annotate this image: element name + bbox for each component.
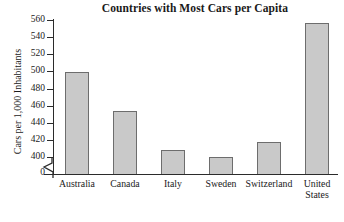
- x-axis-category-label-line: Sweden: [205, 178, 236, 189]
- x-axis-category-label: Canada: [101, 178, 149, 189]
- x-axis-category-label-line: Italy: [164, 178, 182, 189]
- y-tick-label: 520: [14, 49, 45, 59]
- y-tick: [47, 54, 53, 55]
- y-tick-label: 440: [14, 118, 45, 128]
- x-axis-line: [44, 174, 338, 175]
- x-axis-category-label-line: Canada: [110, 178, 139, 189]
- y-tick-label: 480: [14, 84, 45, 94]
- bar: [305, 23, 329, 174]
- y-tick-label: 500: [14, 66, 45, 76]
- y-tick-label: 540: [14, 32, 45, 42]
- y-tick: [47, 71, 53, 72]
- bar: [161, 150, 185, 174]
- y-axis-line: [53, 19, 54, 175]
- x-axis-category-label-line: Australia: [59, 178, 95, 189]
- x-axis-category-label: Italy: [149, 178, 197, 189]
- bar: [65, 72, 89, 174]
- x-axis-category-label: Australia: [53, 178, 101, 189]
- x-axis-category-label: UnitedStates: [293, 178, 341, 200]
- y-tick: [47, 89, 53, 90]
- bar: [113, 111, 137, 174]
- bar: [257, 142, 281, 174]
- bar-chart: Countries with Most Cars per Capita Cars…: [0, 0, 344, 222]
- y-tick-label: 460: [14, 101, 45, 111]
- y-tick: [47, 123, 53, 124]
- y-tick-label: 560: [14, 15, 45, 25]
- y-tick: [47, 106, 53, 107]
- x-axis-category-label-line: Switzerland: [246, 178, 293, 189]
- axis-break-icon: [41, 158, 57, 178]
- y-tick: [47, 20, 53, 21]
- y-tick: [47, 140, 53, 141]
- x-axis-category-label: Switzerland: [245, 178, 293, 189]
- y-tick-label: 420: [14, 135, 45, 145]
- x-axis-category-label-line: States: [293, 189, 341, 200]
- y-tick: [47, 37, 53, 38]
- x-axis-category-label: Sweden: [197, 178, 245, 189]
- chart-title: Countries with Most Cars per Capita: [54, 2, 336, 15]
- x-axis-category-label-line: United: [304, 178, 331, 189]
- bar: [209, 157, 233, 174]
